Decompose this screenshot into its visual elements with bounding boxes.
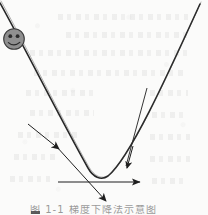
figure-canvas: 图 1-1 梯度下降法示意图 — [0, 0, 208, 215]
negative-gradient-arrow — [28, 124, 106, 201]
smiley-eye-left — [8, 34, 12, 38]
diagram-svg — [0, 0, 208, 215]
smiley-ball — [4, 29, 25, 50]
smiley-eye-right — [16, 34, 20, 38]
right-tangent-arrow — [126, 88, 147, 168]
cost-function-parabola — [0, 1, 201, 178]
